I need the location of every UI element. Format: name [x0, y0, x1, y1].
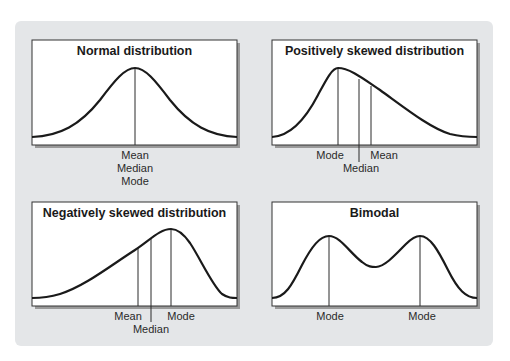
panel-positively-skewed: Positively skewed distribution Mode Mean…: [272, 40, 480, 174]
label-median: Median: [117, 162, 153, 174]
panel-title: Normal distribution: [77, 44, 192, 58]
label-mean: Mean: [114, 310, 142, 322]
panel-title: Bimodal: [350, 206, 399, 220]
distribution-diagrams: Normal distribution Mean Median Mode Pos…: [0, 0, 510, 361]
panel-title: Negatively skewed distribution: [43, 206, 226, 220]
panel-title: Positively skewed distribution: [285, 44, 464, 58]
label-mode: Mode: [121, 175, 149, 187]
label-mode-1: Mode: [316, 310, 344, 322]
label-mode-2: Mode: [408, 310, 436, 322]
panel-normal-distribution: Normal distribution Mean Median Mode: [32, 40, 240, 187]
label-median: Median: [133, 323, 169, 335]
label-mode: Mode: [316, 149, 344, 161]
panel-bimodal: Bimodal Mode Mode: [272, 202, 480, 322]
label-mode: Mode: [167, 310, 195, 322]
label-mean: Mean: [370, 149, 398, 161]
label-median: Median: [343, 162, 379, 174]
label-mean: Mean: [121, 149, 149, 161]
panel-negatively-skewed: Negatively skewed distribution Mean Mode…: [32, 202, 240, 335]
